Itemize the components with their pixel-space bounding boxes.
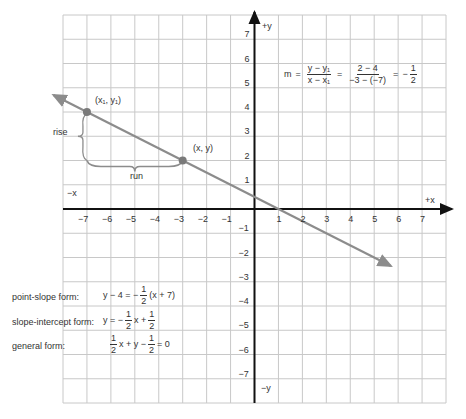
- negative-sign: −: [402, 70, 407, 79]
- pos-y-label: +y: [262, 22, 272, 31]
- x-tick-label: 6: [396, 215, 401, 224]
- x-tick-label: −7: [78, 215, 88, 224]
- point-marker-2: [179, 157, 187, 165]
- slope-fraction-symbolic: y − y₁ x − x₁: [307, 64, 331, 85]
- slope-result: 1 2: [410, 64, 417, 85]
- point-slope-equation: y − 4 = − 12 (x + 7): [103, 285, 175, 306]
- y-tick-label: 4: [245, 103, 250, 112]
- rise-label: rise: [53, 128, 68, 137]
- y-tick-label: 3: [245, 127, 250, 136]
- point-1-label: (x₁, y₁): [95, 96, 121, 105]
- y-tick-label: 7: [245, 30, 250, 39]
- y-tick-label: 2: [245, 152, 250, 161]
- x-tick-label: −6: [102, 215, 112, 224]
- graphed-line: [53, 95, 391, 266]
- slope-formula: m = y − y₁ x − x₁ = 2 − 4 −3 − (−7) = − …: [284, 64, 419, 85]
- y-tick-label: −7: [239, 370, 249, 379]
- x-tick-label: 5: [372, 215, 377, 224]
- neg-x-label: −x: [67, 189, 77, 198]
- x-tick-label: 7: [420, 215, 425, 224]
- y-tick-label: −4: [239, 297, 249, 306]
- point-2-label: (x, y): [193, 144, 213, 153]
- x-tick-label: −3: [174, 215, 184, 224]
- y-tick-label: −1: [239, 224, 249, 233]
- slope-m: m: [284, 70, 292, 79]
- equals-1: =: [296, 70, 301, 79]
- x-tick-label: −2: [198, 215, 208, 224]
- y-tick-label: −3: [239, 273, 249, 282]
- x-tick-label: −4: [150, 215, 160, 224]
- point-marker-1: [83, 108, 91, 116]
- rise-brace: [78, 114, 87, 161]
- general-form-label: general form:: [12, 342, 65, 351]
- x-tick-label: 1: [276, 215, 281, 224]
- slope-intercept-equation: y = − 12 x + 12: [103, 310, 157, 331]
- general-form-equation: 12 x + y − 12 = 0: [108, 334, 170, 355]
- x-tick-label: 3: [324, 215, 329, 224]
- y-tick-label: 1: [245, 176, 250, 185]
- y-tick-label: −2: [239, 249, 249, 258]
- point-slope-label: point-slope form:: [12, 293, 79, 302]
- pos-x-label: +x: [425, 196, 435, 205]
- y-tick-label: 6: [245, 55, 250, 64]
- y-tick-label: 5: [245, 79, 250, 88]
- neg-y-label: −y: [261, 384, 271, 393]
- equals-2: =: [337, 70, 342, 79]
- x-tick-label: 4: [348, 215, 353, 224]
- x-tick-label: −1: [222, 215, 232, 224]
- slope-fraction-numeric: 2 − 4 −3 − (−7): [348, 64, 387, 85]
- y-tick-label: −5: [239, 321, 249, 330]
- x-tick-label: −5: [126, 215, 136, 224]
- coordinate-graph: [0, 0, 466, 419]
- run-label: run: [130, 172, 143, 181]
- x-tick-label: 2: [300, 215, 305, 224]
- equals-3: =: [393, 70, 398, 79]
- slope-intercept-label: slope-intercept form:: [12, 318, 94, 327]
- y-tick-label: −6: [239, 346, 249, 355]
